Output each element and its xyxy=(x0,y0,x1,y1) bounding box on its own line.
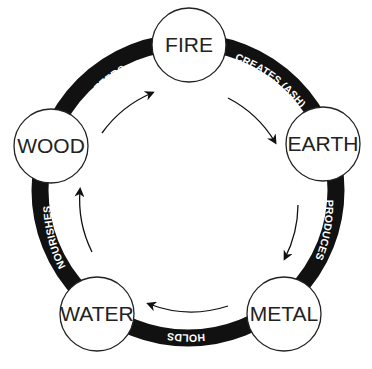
diagram-svg: FEEDS CREATES (ASH) PRODUCES HOLDS NOURI… xyxy=(0,0,372,369)
node-water-label: WATER xyxy=(60,302,134,325)
node-water: WATER xyxy=(60,277,134,351)
node-metal: METAL xyxy=(247,277,321,351)
arrow-earth-to-metal xyxy=(285,205,298,258)
arrow-wood-to-fire xyxy=(102,93,152,133)
node-earth-label: EARTH xyxy=(288,132,359,155)
arrow-fire-to-earth xyxy=(228,98,275,142)
node-metal-label: METAL xyxy=(250,302,318,325)
node-earth: EARTH xyxy=(286,107,360,181)
arrow-water-to-wood xyxy=(80,190,92,252)
node-fire: FIRE xyxy=(152,8,226,82)
five-elements-diagram: FEEDS CREATES (ASH) PRODUCES HOLDS NOURI… xyxy=(0,0,372,369)
arrow-metal-to-water xyxy=(149,304,228,312)
edge-label-produces: PRODUCES xyxy=(313,200,336,263)
node-fire-label: FIRE xyxy=(165,33,213,56)
node-wood-label: WOOD xyxy=(17,134,85,157)
edge-label-holds: HOLDS xyxy=(166,331,205,345)
node-wood: WOOD xyxy=(14,109,88,183)
